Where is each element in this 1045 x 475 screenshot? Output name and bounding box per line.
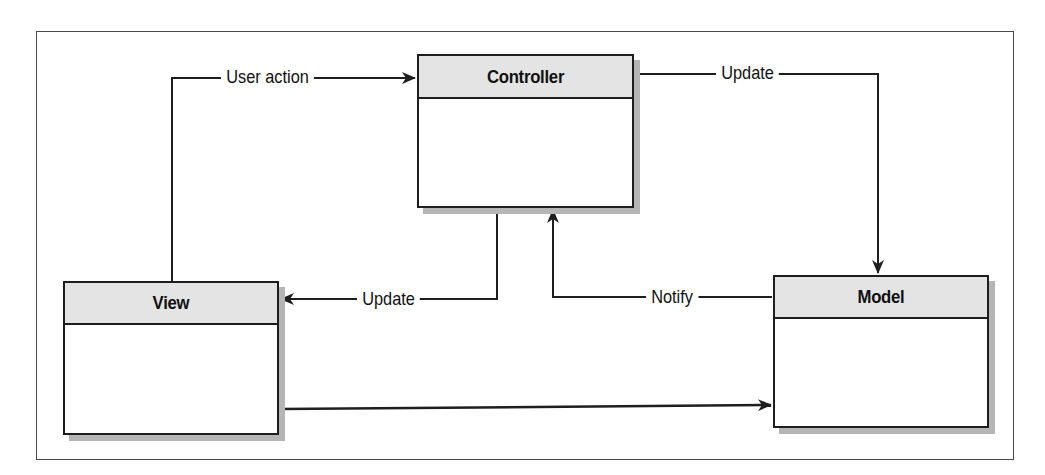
controller-class: Controller <box>417 54 634 208</box>
label-user-action: User action <box>221 66 314 88</box>
controller-header: Controller <box>419 56 632 99</box>
edge-notify <box>553 210 772 297</box>
label-view-update: Update <box>357 288 420 310</box>
view-class: View <box>63 281 279 435</box>
view-header: View <box>65 283 277 325</box>
model-header: Model <box>775 277 987 319</box>
model-title: Model <box>788 277 975 317</box>
controller-title: Controller <box>432 56 619 97</box>
edge-controller-model-update <box>635 74 878 273</box>
model-box: Model <box>773 275 989 428</box>
edge-view-model <box>280 405 771 409</box>
edge-controller-view-update <box>281 208 497 299</box>
label-notify: Notify <box>646 286 698 308</box>
view-box: View <box>63 281 279 435</box>
controller-box: Controller <box>417 54 634 208</box>
label-controller-update: Update <box>716 62 779 84</box>
model-class: Model <box>773 275 989 428</box>
view-title: View <box>78 283 265 323</box>
edge-user-action <box>172 78 415 281</box>
